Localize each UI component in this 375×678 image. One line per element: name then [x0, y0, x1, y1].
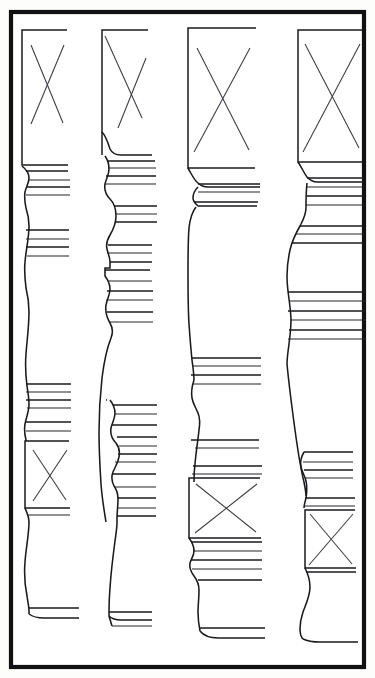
leg-profiles-svg	[0, 0, 375, 678]
drawing-plate	[0, 0, 375, 678]
